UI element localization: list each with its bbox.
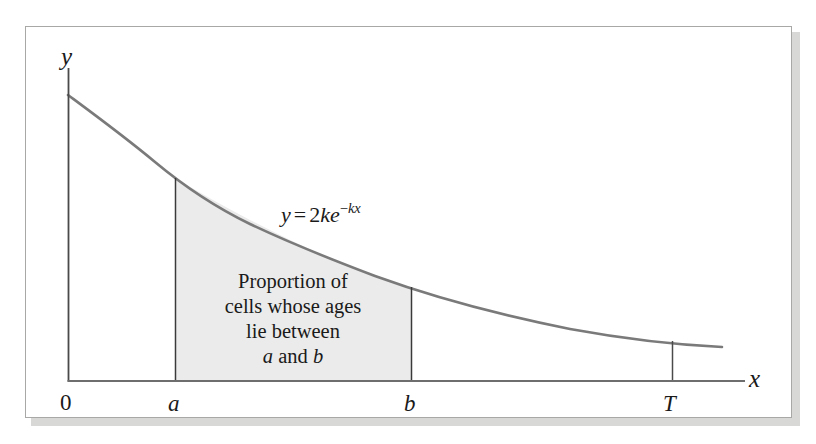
- caption-line-4: a and b: [176, 344, 410, 369]
- caption-conjunction: and: [278, 345, 308, 367]
- tick-label-origin: 0: [60, 391, 72, 414]
- exponential-decay-plot: [0, 0, 816, 444]
- curve-equation-annotation: y=2ke−kx: [281, 201, 361, 226]
- equation-exponent-body: kx: [348, 200, 361, 216]
- equation-lhs: y: [281, 202, 291, 227]
- x-axis-label: x: [749, 366, 760, 391]
- caption-var-b: b: [313, 345, 323, 367]
- equation-coefficient: 2: [309, 202, 320, 227]
- equation-exponent-sign: −: [340, 200, 348, 216]
- equation-constant: k: [320, 202, 330, 227]
- figure-canvas: y x 0 a b T y=2ke−kx Proportion of cells…: [0, 0, 816, 444]
- tick-label-b: b: [404, 392, 416, 415]
- tick-label-a: a: [168, 392, 180, 415]
- caption-line-3: lie between: [176, 319, 410, 344]
- equation-base: e: [330, 202, 340, 227]
- tick-label-T: T: [663, 392, 676, 415]
- y-axis-label: y: [61, 44, 72, 69]
- equation-exponent: −kx: [340, 200, 361, 216]
- equation-operator: =: [294, 202, 306, 227]
- shaded-region-caption: Proportion of cells whose ages lie betwe…: [176, 269, 410, 369]
- caption-var-a: a: [263, 345, 273, 367]
- caption-line-1: Proportion of: [176, 269, 410, 294]
- caption-line-2: cells whose ages: [176, 294, 410, 319]
